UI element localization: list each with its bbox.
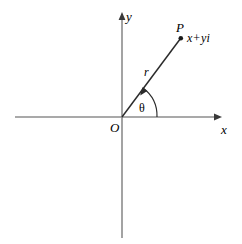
point-p-marker — [179, 36, 184, 41]
point-p-label: P — [176, 21, 184, 34]
point-value-label: x+yi — [187, 32, 210, 44]
y-axis — [119, 12, 126, 238]
radius-label: r — [144, 66, 149, 78]
origin-label: O — [110, 121, 119, 134]
point-value-imaginary: yi — [201, 31, 210, 45]
y-axis-arrowhead-icon — [119, 12, 126, 20]
complex-plane-figure: y x O r θ P x+yi — [0, 0, 242, 244]
angle-label: θ — [139, 102, 145, 114]
point-value-operator: + — [192, 31, 201, 45]
angle-arc-arrowhead-icon — [140, 87, 147, 95]
angle-arc — [143, 88, 157, 117]
x-axis-label: x — [221, 123, 227, 136]
y-axis-label: y — [126, 10, 132, 23]
radius-segment — [122, 39, 181, 118]
x-axis-arrowhead-icon — [214, 114, 222, 121]
